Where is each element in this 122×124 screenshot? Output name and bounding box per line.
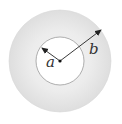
center-dot [58, 59, 61, 62]
concentric-circles-diagram: a b [0, 0, 122, 124]
label-b: b [89, 40, 99, 58]
label-a: a [46, 53, 55, 71]
